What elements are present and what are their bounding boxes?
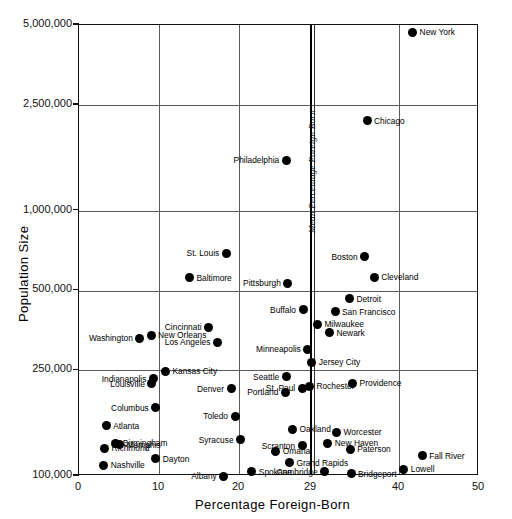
data-point-label: Pittsburgh xyxy=(243,279,281,287)
data-point-label: New York xyxy=(420,28,455,36)
data-point-label: Toledo xyxy=(203,412,228,420)
gridline-horizontal xyxy=(79,105,477,106)
x-axis-tick-label: 10 xyxy=(138,480,178,492)
data-point xyxy=(408,28,417,37)
data-point xyxy=(236,435,245,444)
data-point-label: Louisville xyxy=(110,379,144,387)
data-point-label: Boston xyxy=(332,252,358,260)
data-point xyxy=(313,320,322,329)
data-point xyxy=(247,467,256,476)
data-point-label: Washington xyxy=(89,334,133,342)
data-point xyxy=(347,469,356,478)
data-point xyxy=(323,439,332,448)
x-axis-tick-label: 20 xyxy=(218,480,258,492)
scatter-plot-figure: Percentage Foreign-Born Population Size … xyxy=(0,0,512,519)
data-point-label: Omaha xyxy=(283,447,310,455)
data-point xyxy=(299,305,308,314)
gridline-vertical xyxy=(399,25,400,474)
y-axis-title: Population Size xyxy=(16,226,31,322)
data-point xyxy=(399,465,408,474)
data-point-label: Denver xyxy=(197,385,224,393)
data-point-label: Los Angeles xyxy=(165,338,211,346)
data-point xyxy=(213,338,222,347)
y-axis-tick-label: 1,000,000 xyxy=(2,203,72,215)
data-point xyxy=(370,273,379,282)
data-point-label: Nashville xyxy=(111,461,145,469)
data-point-label: Baltimore xyxy=(196,274,231,282)
data-point-label: Columbus xyxy=(111,403,149,411)
data-point xyxy=(345,294,354,303)
data-point xyxy=(331,307,340,316)
data-point xyxy=(227,384,236,393)
y-axis-tick-label: 250,000 xyxy=(2,362,72,374)
data-point xyxy=(161,367,170,376)
mean-percentage-line xyxy=(310,25,313,474)
data-point xyxy=(135,334,144,343)
data-point xyxy=(363,116,372,125)
gridline-horizontal xyxy=(79,291,477,292)
mean-percentage-line-secondary xyxy=(314,25,315,474)
data-point-label: Minneapolis xyxy=(256,345,301,353)
data-point xyxy=(418,451,427,460)
data-point xyxy=(231,412,240,421)
data-point-label: Paterson xyxy=(357,445,391,453)
y-axis-tick-label: 100,000 xyxy=(2,468,72,480)
gridline-vertical xyxy=(239,25,240,474)
data-point xyxy=(332,428,341,437)
data-point xyxy=(102,421,111,430)
data-point-label: Chicago xyxy=(374,116,405,124)
data-point-label: Detroit xyxy=(356,295,381,303)
data-point xyxy=(100,444,109,453)
y-axis-tick-label: 5,000,000 xyxy=(2,17,72,29)
data-point-label: Buffalo xyxy=(270,305,296,313)
data-point-label: Newark xyxy=(336,328,364,336)
data-point-label: Oakland xyxy=(300,425,331,433)
x-axis-tick-label: 40 xyxy=(378,480,418,492)
y-axis-tick-label: 500,000 xyxy=(2,282,72,294)
data-point-label: Dayton xyxy=(163,455,190,463)
data-point xyxy=(147,379,156,388)
data-point xyxy=(282,372,291,381)
plot-area: Mean Percentage Foreign Born New YorkChi… xyxy=(78,24,478,475)
data-point-label: Lowell xyxy=(411,465,435,473)
data-point xyxy=(281,388,290,397)
mean-percentage-line-label: Mean Percentage Foreign Born xyxy=(307,110,317,233)
x-axis-tick-label: 50 xyxy=(458,480,498,492)
data-point xyxy=(298,384,307,393)
gridline-horizontal xyxy=(79,211,477,212)
data-point-label: St. Louis xyxy=(187,249,220,257)
data-point-label: Richmond xyxy=(112,444,150,452)
data-point xyxy=(271,447,280,456)
data-point-label: San Francisco xyxy=(342,307,396,315)
data-point-label: Albany xyxy=(191,472,217,480)
data-point-label: Portland xyxy=(247,388,278,396)
data-point-label: Worcester xyxy=(344,428,382,436)
data-point xyxy=(185,273,194,282)
data-point-label: Jersey City xyxy=(319,358,360,366)
data-point-label: Cleveland xyxy=(381,273,418,281)
x-axis-title: Percentage Foreign-Born xyxy=(195,497,350,512)
data-point-label: Syracuse xyxy=(199,435,234,443)
data-point-label: Bridgeport xyxy=(358,469,397,477)
x-axis-tick-label: 29 xyxy=(290,480,330,492)
data-point-label: Seattle xyxy=(253,372,279,380)
data-point xyxy=(303,345,312,354)
data-point-label: Rochester xyxy=(316,382,354,390)
x-axis-tick-label: 0 xyxy=(58,480,98,492)
data-point-label: Atlanta xyxy=(113,421,139,429)
data-point-label: Providence xyxy=(360,379,402,387)
data-point xyxy=(360,252,369,261)
data-point xyxy=(346,445,355,454)
data-point xyxy=(283,279,292,288)
data-point-label: Fall River xyxy=(429,452,464,460)
data-point xyxy=(325,328,334,337)
data-point xyxy=(219,472,228,481)
y-axis-tick-label: 2,500,000 xyxy=(2,97,72,109)
data-point xyxy=(147,331,156,340)
data-point-label: Philadelphia xyxy=(234,156,280,164)
data-point xyxy=(288,425,297,434)
data-point xyxy=(222,249,231,258)
data-point xyxy=(282,156,291,165)
data-point-label: Kansas City xyxy=(172,367,217,375)
data-point xyxy=(99,461,108,470)
